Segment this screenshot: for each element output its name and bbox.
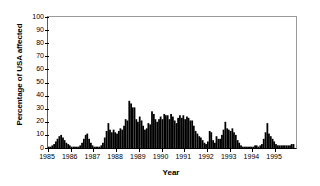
bar xyxy=(144,130,146,148)
bar xyxy=(97,147,99,148)
bar xyxy=(62,138,64,148)
bar xyxy=(109,130,111,148)
bar xyxy=(118,131,120,148)
y-tick-mark xyxy=(45,96,49,97)
bar xyxy=(60,135,62,148)
y-tick-mark xyxy=(45,17,49,18)
plot-area xyxy=(47,16,297,149)
bar xyxy=(169,119,171,148)
bar xyxy=(195,131,197,148)
bar xyxy=(256,145,258,148)
bar xyxy=(261,144,263,148)
bar xyxy=(177,118,179,148)
bar xyxy=(272,139,274,148)
y-tick-label: 80 xyxy=(22,39,44,46)
bar xyxy=(73,147,75,148)
bar xyxy=(88,139,90,148)
bar xyxy=(83,139,85,148)
bar xyxy=(214,143,216,148)
bar xyxy=(184,119,186,148)
bar xyxy=(245,147,247,148)
bar xyxy=(113,130,115,148)
y-axis-tick-labels: 0102030405060708090100 xyxy=(22,16,44,147)
bar xyxy=(125,119,127,148)
bar xyxy=(99,147,101,148)
bar xyxy=(55,141,57,148)
bar xyxy=(167,115,169,148)
bar xyxy=(197,134,199,148)
y-tick-mark xyxy=(45,122,49,123)
bar xyxy=(233,132,235,148)
bar xyxy=(141,120,143,148)
y-tick-mark xyxy=(45,30,49,31)
bar xyxy=(204,143,206,148)
bar xyxy=(259,145,261,148)
bar xyxy=(153,114,155,148)
bar xyxy=(188,118,190,148)
bar xyxy=(142,126,144,148)
bar xyxy=(114,132,116,148)
y-tick-label: 0 xyxy=(22,144,44,151)
bar xyxy=(156,122,158,148)
bar xyxy=(189,120,191,148)
bar xyxy=(270,136,272,148)
y-tick-label: 70 xyxy=(22,52,44,59)
y-tick-label: 40 xyxy=(22,91,44,98)
bar xyxy=(160,117,162,148)
bar xyxy=(210,132,212,148)
bar xyxy=(95,147,97,148)
bar xyxy=(277,145,279,148)
bar xyxy=(116,134,118,148)
bar xyxy=(86,134,88,148)
bar xyxy=(162,119,164,148)
bar xyxy=(57,139,59,148)
bar xyxy=(284,145,286,148)
y-tick-mark xyxy=(45,43,49,44)
bar xyxy=(134,107,136,148)
bar xyxy=(127,120,129,148)
bar xyxy=(176,123,178,148)
bar xyxy=(232,128,234,148)
bar xyxy=(120,128,122,148)
y-tick-label: 20 xyxy=(22,117,44,124)
bar xyxy=(170,114,172,148)
bar xyxy=(202,140,204,148)
bar xyxy=(230,131,232,148)
bar xyxy=(130,103,132,148)
bar xyxy=(200,138,202,148)
bar xyxy=(58,136,60,148)
y-tick-mark xyxy=(45,109,49,110)
bar xyxy=(179,115,181,148)
bar xyxy=(209,131,211,148)
bar xyxy=(81,143,83,148)
bar xyxy=(78,147,80,148)
bar xyxy=(224,122,226,148)
bar xyxy=(191,120,193,148)
bar xyxy=(123,126,125,148)
bar xyxy=(128,101,130,148)
bar xyxy=(67,144,69,148)
y-tick-label: 30 xyxy=(22,104,44,111)
bar xyxy=(219,139,221,148)
bar xyxy=(266,123,268,148)
bar xyxy=(147,123,149,148)
bar xyxy=(181,118,183,148)
bar xyxy=(79,145,81,148)
bar xyxy=(165,115,167,148)
bar xyxy=(172,117,174,148)
bar xyxy=(158,119,160,148)
bar xyxy=(51,145,53,148)
bar xyxy=(240,145,242,148)
bar xyxy=(263,139,265,148)
y-tick-label: 100 xyxy=(22,13,44,20)
bar xyxy=(254,145,256,148)
y-tick-label: 50 xyxy=(22,78,44,85)
bar xyxy=(132,107,134,148)
bar xyxy=(268,134,270,148)
bar xyxy=(228,130,230,148)
bar xyxy=(139,117,141,148)
bar xyxy=(223,130,225,148)
bar xyxy=(151,111,153,148)
bar xyxy=(287,145,289,148)
bar xyxy=(146,128,148,148)
